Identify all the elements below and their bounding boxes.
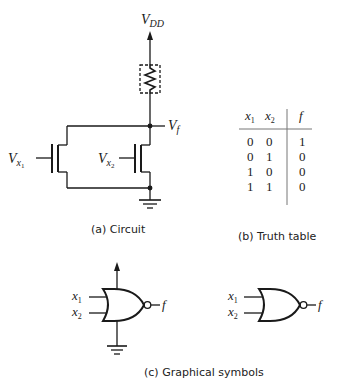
nor-gate-icon [259, 289, 300, 321]
gate1-input1-label: x1 [71, 288, 82, 305]
inversion-bubble [144, 302, 151, 309]
vx2-label: Vx2 [98, 151, 115, 170]
ground-icon [107, 346, 127, 354]
nor-gate-symbol [244, 289, 316, 321]
svg-text:1: 1 [247, 164, 254, 179]
vx1-label: Vx1 [8, 151, 25, 170]
svg-text:0: 0 [299, 164, 306, 179]
header-x1: x1 [244, 108, 255, 125]
table-row: 0 1 0 [247, 149, 306, 164]
power-arrow-icon [114, 262, 120, 271]
gate1-output-label: f [162, 297, 168, 312]
gate1-input2-label: x2 [71, 304, 82, 321]
nor-gate-symbol-powered [89, 262, 160, 354]
symbols-caption: (c) Graphical symbols [144, 366, 264, 379]
truth-table-caption: (b) Truth table [238, 230, 317, 243]
svg-text:1: 1 [299, 134, 306, 149]
header-f: f [299, 108, 305, 123]
gate2-input2-label: x2 [227, 304, 238, 321]
svg-text:1: 1 [266, 179, 273, 194]
svg-text:0: 0 [247, 134, 254, 149]
svg-text:1: 1 [247, 179, 254, 194]
resistor-icon [145, 64, 155, 94]
vdd-arrow-icon [147, 31, 153, 40]
ground-icon [139, 200, 161, 208]
svg-text:0: 0 [247, 149, 254, 164]
nor-gate-icon [103, 289, 144, 321]
svg-text:0: 0 [266, 134, 273, 149]
table-row: 1 0 0 [247, 164, 306, 179]
vdd-label: VDD [141, 12, 165, 29]
nor-gate-figure: VDD Vf Vx1 Vx2 (a) Circuit x1 x2 f 0 0 1… [0, 0, 344, 390]
svg-text:0: 0 [266, 164, 273, 179]
header-x2: x2 [264, 108, 275, 125]
svg-text:1: 1 [266, 149, 273, 164]
transistor-x1 [36, 144, 67, 188]
table-row: 0 0 1 [247, 134, 306, 149]
svg-text:0: 0 [299, 179, 306, 194]
truth-table: x1 x2 f 0 0 1 0 1 0 1 0 0 1 1 0 [239, 108, 312, 205]
vf-label: Vf [168, 118, 181, 135]
gate2-output-label: f [318, 297, 324, 312]
svg-text:0: 0 [299, 149, 306, 164]
transistor-x2 [119, 144, 150, 200]
nmos-nor-circuit [36, 31, 165, 208]
table-row: 1 1 0 [247, 179, 306, 194]
gate2-input1-label: x1 [227, 288, 238, 305]
inversion-bubble [300, 302, 307, 309]
circuit-caption: (a) Circuit [91, 223, 146, 236]
